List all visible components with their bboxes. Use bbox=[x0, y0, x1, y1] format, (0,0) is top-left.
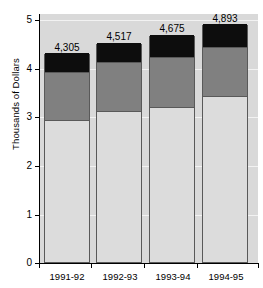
bar-segment-top-1991-92 bbox=[45, 53, 89, 73]
bar-segment-middle-1992-93 bbox=[97, 63, 141, 113]
bar-divider-upper-1994-95 bbox=[203, 47, 247, 48]
bar-segment-middle-1991-92 bbox=[45, 73, 89, 122]
bar-group-1994-95 bbox=[202, 14, 248, 263]
x-tick-mark-4 bbox=[258, 264, 259, 268]
y-tick-label-4: 4 bbox=[16, 63, 32, 75]
bar-stack-1991-92[interactable] bbox=[44, 54, 90, 263]
y-tick-label-1: 1 bbox=[16, 209, 32, 221]
y-tick-label-2: 2 bbox=[16, 160, 32, 172]
bar-divider-lower-1992-93 bbox=[97, 111, 141, 112]
bar-value-label-1993-94: 4,675 bbox=[149, 23, 195, 34]
x-tick-mark-1 bbox=[91, 264, 92, 268]
bar-divider-upper-1991-92 bbox=[45, 72, 89, 73]
bar-value-label-1992-93: 4,517 bbox=[96, 31, 142, 42]
bar-stack-1994-95[interactable] bbox=[202, 25, 248, 263]
bar-segment-bottom-1991-92 bbox=[45, 121, 89, 262]
bar-divider-lower-1993-94 bbox=[150, 107, 194, 108]
x-tick-label-1994-95: 1994-95 bbox=[198, 271, 254, 282]
bar-group-1992-93 bbox=[96, 14, 142, 263]
bar-segment-bottom-1992-93 bbox=[97, 112, 141, 262]
x-tick-label-1992-93: 1992-93 bbox=[92, 271, 148, 282]
bar-group-1993-94 bbox=[149, 14, 195, 263]
y-tick-label-5: 5 bbox=[16, 14, 32, 26]
y-axis-tick-labels: 5 4 3 2 1 0 bbox=[16, 0, 32, 288]
x-tick-label-1993-94: 1993-94 bbox=[145, 271, 201, 282]
bar-divider-lower-1994-95 bbox=[203, 96, 247, 97]
x-tick-label-1991-92: 1991-92 bbox=[39, 271, 95, 282]
bar-divider-upper-1992-93 bbox=[97, 62, 141, 63]
bar-segment-top-1993-94 bbox=[150, 35, 194, 58]
bar-stack-1992-93[interactable] bbox=[96, 44, 142, 263]
bar-divider-upper-1993-94 bbox=[150, 57, 194, 58]
x-tick-mark-0 bbox=[39, 264, 40, 268]
y-axis-line bbox=[39, 14, 40, 264]
bar-value-label-1991-92: 4,305 bbox=[44, 42, 90, 53]
stacked-bar-chart: Thousands of Dollars 5 4 3 2 1 0 bbox=[0, 0, 263, 288]
x-tick-mark-2 bbox=[144, 264, 145, 268]
bar-segment-middle-1993-94 bbox=[150, 58, 194, 108]
x-tick-mark-3 bbox=[197, 264, 198, 268]
y-tick-label-3: 3 bbox=[16, 111, 32, 123]
bar-segment-top-1992-93 bbox=[97, 43, 141, 63]
bar-segment-bottom-1994-95 bbox=[203, 97, 247, 262]
bar-segment-bottom-1993-94 bbox=[150, 108, 194, 262]
bar-segment-top-1994-95 bbox=[203, 24, 247, 48]
x-axis-line bbox=[39, 263, 259, 264]
bar-value-label-1994-95: 4,893 bbox=[202, 13, 248, 24]
bar-stack-1993-94[interactable] bbox=[149, 36, 195, 263]
bar-segment-middle-1994-95 bbox=[203, 48, 247, 97]
bar-divider-lower-1991-92 bbox=[45, 120, 89, 121]
y-tick-label-0: 0 bbox=[16, 257, 32, 269]
